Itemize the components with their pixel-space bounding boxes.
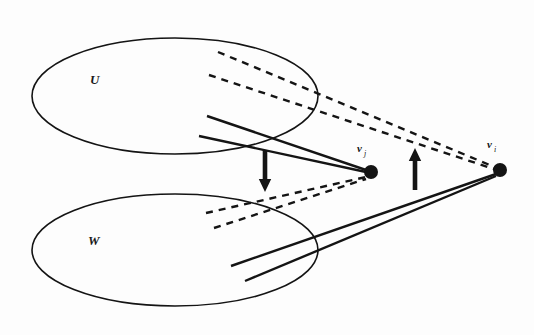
set-label-w: W — [88, 233, 101, 248]
diagram-svg: U W v j v i — [0, 0, 534, 335]
dashed-edges-u-to-vi — [209, 52, 497, 170]
dashed-edges-w-to-vj — [206, 177, 366, 228]
dashed-edge — [209, 75, 497, 170]
dashed-edge — [206, 177, 366, 213]
set-group — [32, 38, 318, 306]
down-arrow-icon — [259, 150, 271, 192]
solid-edges-u-to-vj — [199, 116, 366, 172]
set-label-u: U — [90, 72, 100, 87]
label-group: U W v j v i — [88, 72, 496, 248]
node-label-vj: v — [357, 142, 362, 154]
solid-edges-w-to-vi — [231, 174, 496, 281]
node-subscript-vj: j — [363, 149, 367, 158]
figure-canvas: U W v j v i — [0, 0, 534, 335]
dashed-edge — [214, 179, 366, 228]
node-dot-vi — [493, 163, 507, 177]
node-dot-vj — [364, 165, 378, 179]
solid-edge — [231, 174, 496, 266]
solid-edge — [245, 176, 496, 281]
node-subscript-vi: i — [494, 145, 496, 154]
up-arrow-icon — [409, 148, 421, 190]
node-label-vi: v — [487, 138, 492, 150]
